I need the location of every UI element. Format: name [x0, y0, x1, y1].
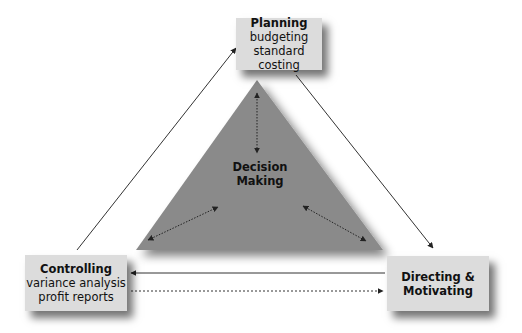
decision-title: Decision — [215, 160, 305, 174]
controlling-title: Controlling — [40, 262, 112, 276]
decision-making-label: Decision Making — [215, 160, 305, 188]
planning-line-2: standard costing — [236, 44, 322, 72]
planning-title: Planning — [251, 16, 308, 30]
controlling-box: Controlling variance analysis profit rep… — [25, 255, 127, 311]
planning-box: Planning budgeting standard costing — [236, 18, 322, 70]
directing-box: Directing & Motivating — [387, 256, 489, 311]
directing-line-1: Motivating — [403, 284, 473, 298]
controlling-line-1: variance analysis — [26, 276, 126, 290]
controlling-line-2: profit reports — [38, 290, 113, 304]
planning-line-1: budgeting — [250, 30, 309, 44]
directing-title: Directing & — [401, 270, 475, 284]
decision-subtitle: Making — [215, 174, 305, 188]
